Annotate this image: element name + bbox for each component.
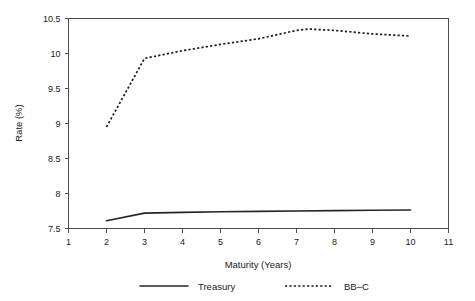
x-tick-label: 7 — [294, 237, 299, 247]
series-line-bb-c — [107, 29, 411, 127]
x-tick-label: 6 — [256, 237, 261, 247]
x-tick-label: 2 — [104, 237, 109, 247]
y-tick-label: 10.5 — [43, 14, 61, 24]
x-tick-label: 9 — [370, 237, 375, 247]
series-line-treasury — [107, 210, 411, 221]
x-axis: 1234567891011 — [66, 229, 453, 247]
x-axis-title: Maturity (Years) — [225, 259, 292, 270]
chart-canvas: 7.588.599.51010.5 1234567891011 Maturity… — [0, 0, 475, 301]
rate-vs-maturity-chart: 7.588.599.51010.5 1234567891011 Maturity… — [0, 0, 475, 301]
legend-label-treasury: Treasury — [198, 281, 235, 292]
series-group — [107, 29, 411, 221]
axis-frame — [69, 19, 449, 229]
y-tick-label: 10 — [50, 49, 60, 59]
x-tick-label: 4 — [180, 237, 185, 247]
y-tick-label: 8 — [55, 189, 60, 199]
x-tick-label: 3 — [142, 237, 147, 247]
x-tick-label: 5 — [218, 237, 223, 247]
y-axis-title: Rate (%) — [13, 104, 24, 141]
plot-frame — [69, 19, 449, 229]
x-tick-label: 10 — [405, 237, 415, 247]
y-axis: 7.588.599.51010.5 — [43, 14, 69, 234]
x-tick-label: 8 — [332, 237, 337, 247]
x-tick-label: 1 — [66, 237, 71, 247]
chart-legend: Treasury BB–C — [140, 281, 369, 292]
x-tick-label: 11 — [444, 237, 453, 247]
y-tick-label: 9.5 — [48, 84, 61, 94]
y-tick-label: 9 — [55, 119, 60, 129]
y-tick-label: 7.5 — [48, 224, 61, 234]
legend-label-bb-c: BB–C — [344, 281, 369, 292]
y-tick-label: 8.5 — [48, 154, 61, 164]
